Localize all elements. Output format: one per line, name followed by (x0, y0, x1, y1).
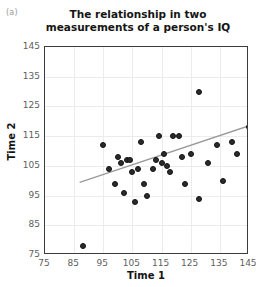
gridline-vertical (162, 47, 163, 253)
data-point (127, 157, 133, 163)
data-point (220, 178, 226, 184)
data-point (121, 190, 127, 196)
gridline-horizontal (45, 77, 247, 78)
data-point (164, 163, 170, 169)
data-point (118, 160, 124, 166)
gridline-horizontal (45, 106, 247, 107)
data-point (80, 243, 86, 249)
chart-title-line-1: The relationship in two (18, 8, 258, 21)
y-tick-label: 145 (14, 41, 40, 51)
plot-area (44, 46, 248, 254)
y-tick-label: 85 (14, 219, 40, 229)
data-point (246, 124, 248, 130)
data-point (132, 199, 138, 205)
data-point (196, 89, 202, 95)
data-point (100, 142, 106, 148)
x-tick-label: 115 (148, 258, 174, 268)
gridline-vertical (74, 47, 75, 253)
data-point (234, 151, 240, 157)
gridline-vertical (132, 47, 133, 253)
scatter-chart-figure: (a) The relationship in two measurements… (0, 0, 266, 287)
gridline-horizontal (45, 136, 247, 137)
chart-title-line-2: measurements of a person's IQ (18, 21, 258, 34)
y-tick-label: 95 (14, 190, 40, 200)
y-tick-label: 135 (14, 71, 40, 81)
data-point (112, 181, 118, 187)
y-tick-label: 105 (14, 160, 40, 170)
data-point (144, 193, 150, 199)
gridline-horizontal (45, 225, 247, 226)
data-point (153, 157, 159, 163)
data-point (135, 166, 141, 172)
data-point (167, 169, 173, 175)
data-point (196, 196, 202, 202)
data-point (179, 154, 185, 160)
x-tick-label: 105 (118, 258, 144, 268)
gridline-vertical (103, 47, 104, 253)
data-point (138, 139, 144, 145)
data-point (229, 139, 235, 145)
y-tick-label: 125 (14, 100, 40, 110)
gridline-horizontal (45, 166, 247, 167)
data-point (106, 166, 112, 172)
x-tick-label: 125 (177, 258, 203, 268)
chart-title: The relationship in two measurements of … (18, 8, 258, 34)
y-axis-tick-labels: 758595105115125135145 (8, 0, 40, 287)
x-tick-label: 75 (31, 258, 57, 268)
data-point (214, 142, 220, 148)
data-point (150, 166, 156, 172)
x-axis-label: Time 1 (44, 270, 248, 281)
trend-line (45, 47, 247, 253)
data-point (156, 133, 162, 139)
data-point (161, 151, 167, 157)
data-point (188, 151, 194, 157)
x-tick-label: 145 (235, 258, 261, 268)
gridline-vertical (220, 47, 221, 253)
data-point (176, 133, 182, 139)
x-tick-label: 85 (60, 258, 86, 268)
data-point (141, 181, 147, 187)
x-tick-label: 95 (89, 258, 115, 268)
data-point (182, 181, 188, 187)
y-tick-label: 115 (14, 130, 40, 140)
x-tick-label: 135 (206, 258, 232, 268)
